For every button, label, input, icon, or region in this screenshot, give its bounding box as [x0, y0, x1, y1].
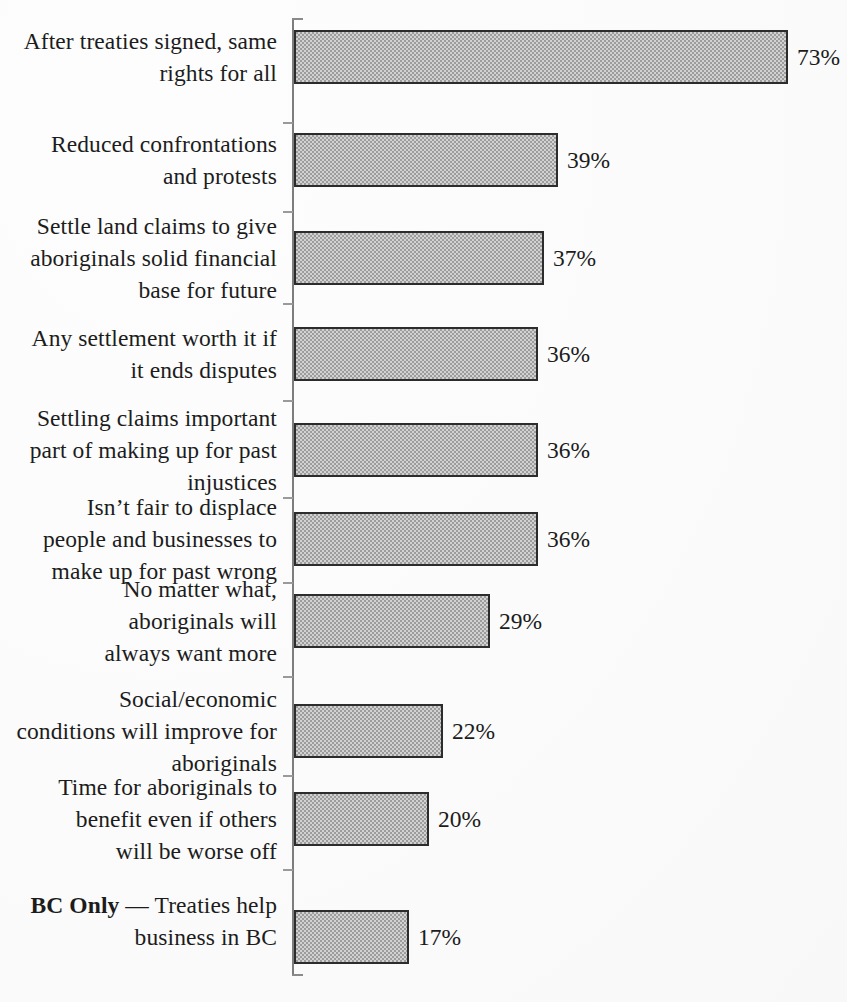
category-label-line: part of making up for past: [0, 434, 277, 466]
category-label-line: and protests: [0, 160, 277, 192]
category-label-line: Settle land claims to give: [0, 210, 277, 242]
category-label-line: benefit even if others: [0, 803, 277, 835]
axis-tick: [283, 775, 293, 777]
axis-tick: [283, 303, 293, 305]
category-label-line: always want more: [0, 637, 277, 669]
axis-end-cap: [292, 18, 303, 20]
axis-tick: [283, 400, 293, 402]
category-label: After treaties signed, samerights for al…: [0, 25, 277, 89]
category-label-text: — Treaties help: [119, 892, 277, 918]
bar-value-label: 17%: [418, 926, 461, 950]
axis-tick: [283, 211, 293, 213]
category-label-line: business in BC: [0, 921, 277, 953]
axis-tick: [283, 582, 293, 584]
bar[interactable]: [294, 231, 544, 285]
bar-value-label: 37%: [553, 247, 596, 271]
category-label: Time for aboriginals tobenefit even if o…: [0, 771, 277, 867]
page-background: After treaties signed, samerights for al…: [0, 0, 847, 1002]
category-label-line: BC Only — Treaties help: [0, 889, 277, 921]
category-label: Settle land claims to giveaboriginals so…: [0, 210, 277, 306]
bar-row: After treaties signed, samerights for al…: [0, 30, 847, 84]
axis-tick: [283, 869, 293, 871]
bar-row: Reduced confrontationsand protests39%: [0, 133, 847, 187]
bar[interactable]: [294, 327, 538, 381]
category-label-line: Settling claims important: [0, 402, 277, 434]
category-label-line: aboriginals solid financial: [0, 242, 277, 274]
bar[interactable]: [294, 30, 788, 84]
bar-value-label: 29%: [499, 610, 542, 634]
category-label-line: will be worse off: [0, 835, 277, 867]
axis-tick: [283, 122, 293, 124]
category-label-line: base for future: [0, 274, 277, 306]
bar-row: Social/economicconditions will improve f…: [0, 704, 847, 758]
category-label: BC Only — Treaties helpbusiness in BC: [0, 889, 277, 953]
category-label-line: After treaties signed, same: [0, 25, 277, 57]
category-label-emphasis: BC Only: [31, 892, 120, 918]
category-label-line: Any settlement worth it if: [0, 322, 277, 354]
axis-tick: [283, 676, 293, 678]
category-label-line: Time for aboriginals to: [0, 771, 277, 803]
category-label-line: people and businesses to: [0, 523, 277, 555]
bar-row: BC Only — Treaties helpbusiness in BC17%: [0, 910, 847, 964]
bar[interactable]: [294, 133, 558, 187]
category-label-line: Reduced confrontations: [0, 128, 277, 160]
category-label-line: it ends disputes: [0, 354, 277, 386]
bar-value-label: 73%: [797, 46, 840, 70]
bar-row: Isn’t fair to displacepeople and busines…: [0, 512, 847, 566]
category-label-line: Social/economic: [0, 683, 277, 715]
category-label: Social/economicconditions will improve f…: [0, 683, 277, 779]
bar-value-label: 22%: [452, 720, 495, 744]
bar-value-label: 36%: [547, 439, 590, 463]
category-label: Reduced confrontationsand protests: [0, 128, 277, 192]
bar[interactable]: [294, 910, 409, 964]
bar[interactable]: [294, 792, 429, 846]
bar[interactable]: [294, 423, 538, 477]
bar-value-label: 36%: [547, 343, 590, 367]
bar-row: Time for aboriginals tobenefit even if o…: [0, 792, 847, 846]
bar[interactable]: [294, 704, 443, 758]
bar-row: Any settlement worth it ifit ends disput…: [0, 327, 847, 381]
bar-row: Settling claims importantpart of making …: [0, 423, 847, 477]
category-label: Any settlement worth it ifit ends disput…: [0, 322, 277, 386]
category-label: Settling claims importantpart of making …: [0, 402, 277, 498]
bar-chart: After treaties signed, samerights for al…: [0, 0, 847, 1002]
bar[interactable]: [294, 512, 538, 566]
category-label-line: rights for all: [0, 57, 277, 89]
bar-value-label: 39%: [567, 149, 610, 173]
axis-end-cap: [292, 974, 303, 976]
category-label-line: Isn’t fair to displace: [0, 491, 277, 523]
bar-value-label: 36%: [547, 528, 590, 552]
category-label: No matter what,aboriginals willalways wa…: [0, 573, 277, 669]
bar[interactable]: [294, 594, 490, 648]
category-label-line: conditions will improve for: [0, 715, 277, 747]
bar-row: No matter what,aboriginals willalways wa…: [0, 594, 847, 648]
bar-value-label: 20%: [438, 808, 481, 832]
chart-title-clipped: [300, 0, 720, 2]
category-label-line: No matter what,: [0, 573, 277, 605]
category-label-line: aboriginals will: [0, 605, 277, 637]
axis-tick: [283, 497, 293, 499]
bar-row: Settle land claims to giveaboriginals so…: [0, 231, 847, 285]
